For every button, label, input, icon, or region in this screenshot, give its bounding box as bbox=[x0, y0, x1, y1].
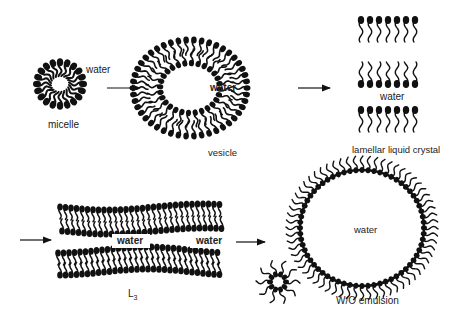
wo-water-label: water bbox=[354, 225, 377, 235]
l3-water-label-right: water bbox=[196, 236, 222, 246]
lamellar-structure bbox=[358, 16, 418, 132]
wo-emulsion-structure bbox=[256, 156, 438, 303]
lamellar-label: lamellar liquid crystal bbox=[352, 145, 440, 155]
lamellar-water-label: water bbox=[380, 92, 404, 102]
micelle-label: micelle bbox=[48, 120, 79, 130]
diagram-canvas: water micelle water vesicle water lamell… bbox=[0, 0, 464, 324]
vesicle-label: vesicle bbox=[208, 148, 237, 158]
micelle-water-label: water bbox=[86, 65, 110, 75]
l3-label: L3 bbox=[128, 289, 137, 301]
diagram-artwork bbox=[0, 0, 464, 324]
micelle-structure bbox=[33, 58, 87, 110]
l3-water-label-left: water bbox=[117, 236, 143, 246]
wo-emulsion-label: W/O emulsion bbox=[336, 296, 399, 306]
vesicle-water-label: water bbox=[210, 83, 236, 93]
l3-label-subscript: 3 bbox=[134, 294, 138, 301]
